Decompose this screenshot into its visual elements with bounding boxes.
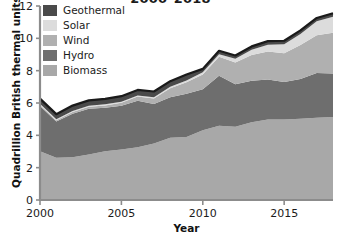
x-tick-label: 2000 — [26, 207, 54, 220]
legend-item-hydro[interactable]: Hydro — [43, 48, 125, 63]
x-axis-ticks: 2000200520102015 — [26, 200, 298, 220]
y-axis-ticks: 024681012 — [19, 0, 40, 207]
x-tick-label: 2010 — [189, 207, 217, 220]
legend-item-label: Solar — [63, 20, 90, 31]
legend-item-solar[interactable]: Solar — [43, 18, 125, 33]
y-tick-label: 4 — [26, 129, 33, 142]
y-tick-label: 8 — [26, 65, 33, 78]
y-tick-label: 6 — [26, 97, 33, 110]
legend-item-label: Biomass — [63, 65, 107, 76]
legend-swatch-icon — [43, 20, 57, 31]
y-tick-label: 0 — [26, 194, 33, 207]
legend-swatch-icon — [43, 5, 57, 16]
y-tick-label: 2 — [26, 162, 33, 175]
legend-item-label: Geothermal — [63, 5, 125, 16]
legend-swatch-icon — [43, 50, 57, 61]
legend-item-label: Wind — [63, 35, 89, 46]
y-tick-label: 12 — [19, 0, 33, 13]
x-axis-title: Year — [40, 222, 333, 234]
legend-swatch-icon — [43, 65, 57, 76]
legend-item-wind[interactable]: Wind — [43, 33, 125, 48]
legend-item-label: Hydro — [63, 50, 94, 61]
legend-item-biomass[interactable]: Biomass — [43, 63, 125, 78]
legend-item-geothermal[interactable]: Geothermal — [43, 3, 125, 18]
x-tick-label: 2015 — [270, 207, 298, 220]
legend-swatch-icon — [43, 35, 57, 46]
y-tick-label: 10 — [19, 32, 33, 45]
chart-legend: GeothermalSolarWindHydroBiomass — [43, 3, 125, 78]
x-tick-label: 2005 — [107, 207, 135, 220]
chart-container: 2000–2018 Quadrillion British thermal un… — [0, 0, 341, 238]
